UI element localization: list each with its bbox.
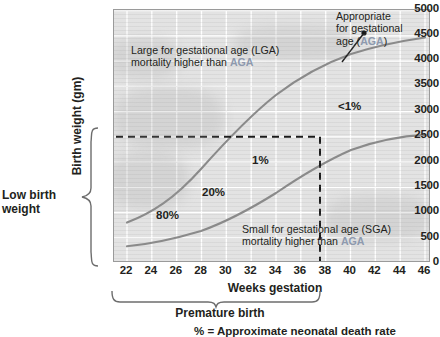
low-birth-weight-bracket: [78, 126, 100, 268]
y-tick-5000: 5000: [395, 3, 439, 14]
plot-area: Large for gestational age (LGA) mortalit…: [113, 9, 430, 262]
x-tick-42: 42: [360, 264, 388, 276]
mortality-label-lt1: <1%: [338, 100, 361, 112]
x-tick-24: 24: [137, 264, 165, 276]
y-tick-1000: 1000: [395, 205, 439, 216]
x-tick-38: 38: [311, 264, 339, 276]
low-birth-weight-line1: Low birth: [2, 188, 56, 202]
aga-annotation-line3-post: ): [384, 35, 388, 47]
shading-blotch: [113, 152, 188, 208]
lga-annotation: Large for gestational age (LGA) mortalit…: [131, 44, 316, 69]
y-tick-3500: 3500: [395, 78, 439, 89]
y-tick-4500: 4500: [395, 28, 439, 39]
lga-annotation-line1: Large for gestational age (LGA): [131, 44, 279, 56]
x-tick-30: 30: [211, 264, 239, 276]
x-tick-40: 40: [336, 264, 364, 276]
premature-birth-label: Premature birth: [120, 306, 320, 320]
low-birth-weight-line2: weight: [2, 202, 40, 216]
shading-blotch: [114, 88, 224, 148]
aga-annotation-line2: for gestational: [336, 22, 403, 34]
x-tick-28: 28: [187, 264, 215, 276]
x-tick-46: 46: [410, 264, 438, 276]
lga-annotation-line2: mortality higher than: [131, 56, 230, 68]
y-tick-1500: 1500: [395, 180, 439, 191]
y-tick-2500: 2500: [395, 129, 439, 140]
x-tick-34: 34: [261, 264, 289, 276]
y-tick-500: 500: [395, 231, 439, 242]
aga-highlight: AGA: [230, 56, 254, 68]
sga-annotation-line2: mortality higher than: [242, 235, 341, 247]
y-tick-3000: 3000: [395, 104, 439, 115]
aga-highlight: AGA: [360, 35, 384, 47]
x-tick-32: 32: [236, 264, 264, 276]
y-tick-4000: 4000: [395, 53, 439, 64]
aga-highlight: AGA: [341, 235, 365, 247]
aga-annotation-line1: Appropriate: [336, 10, 391, 22]
y-tick-2000: 2000: [395, 155, 439, 166]
x-tick-22: 22: [112, 264, 140, 276]
aga-annotation-line3-pre: age (: [336, 35, 360, 47]
x-tick-36: 36: [286, 264, 314, 276]
low-birth-weight-label: Low birth weight: [2, 188, 64, 216]
mortality-label-80: 80%: [156, 209, 179, 221]
mortality-label-1: 1%: [252, 154, 269, 166]
x-tick-44: 44: [385, 264, 413, 276]
footnote: % = Approximate neonatal death rate: [150, 325, 440, 337]
x-tick-26: 26: [162, 264, 190, 276]
sga-annotation-line1: Small for gestational age (SGA): [242, 223, 391, 235]
mortality-label-20: 20%: [202, 186, 225, 198]
